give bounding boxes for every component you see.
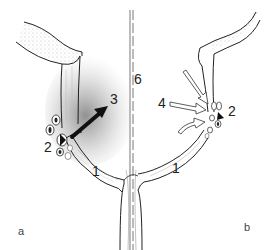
- anatomical-diagram: 1 2 3 6 1 2 4 a b: [0, 0, 273, 250]
- panel-label-a: a: [18, 226, 24, 237]
- label-1-right: 1: [172, 161, 180, 175]
- central-stalk: [120, 170, 142, 250]
- label-3: 3: [110, 92, 118, 106]
- panel-label-b: b: [244, 222, 250, 233]
- diagram-drawing: [0, 0, 273, 250]
- label-6: 6: [134, 72, 142, 86]
- open-arrows-icon: [170, 70, 208, 134]
- label-4: 4: [158, 96, 166, 110]
- label-2-right: 2: [228, 104, 236, 118]
- right-upper-structure: [198, 10, 260, 112]
- label-1-left: 1: [92, 164, 100, 178]
- label-2-left: 2: [44, 140, 52, 154]
